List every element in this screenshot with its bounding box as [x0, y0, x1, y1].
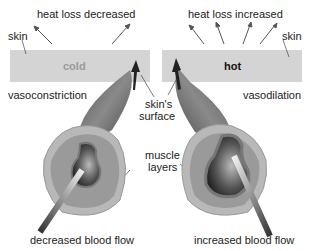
heat-loss-increased-label: heat loss increased: [188, 8, 283, 20]
skin-label-left: skin: [8, 30, 28, 42]
heat-arrows-right: [189, 22, 277, 44]
thermoregulation-diagram: heat loss decreased skin cold vasoconstr…: [0, 0, 310, 251]
vasoconstriction-label: vasoconstriction: [8, 89, 87, 101]
muscle-layers-label-line2: layers: [148, 161, 177, 173]
muscle-layers-label-line1: muscle: [145, 149, 180, 161]
skins-surface-label-line1: skin's: [145, 98, 172, 110]
increased-blood-flow-label: increased blood flow: [194, 234, 294, 246]
heat-loss-decreased-label: heat loss decreased: [37, 8, 135, 20]
skin-label-right: skin: [282, 30, 302, 42]
diagram-graphics: [0, 0, 310, 251]
decreased-blood-flow-label: decreased blood flow: [30, 234, 134, 246]
vasodilation-label: vasodilation: [243, 89, 301, 101]
skins-surface-label-line2: surface: [139, 110, 175, 122]
cold-label: cold: [63, 60, 86, 72]
hot-label: hot: [224, 60, 241, 72]
heat-arrows-left: [34, 24, 130, 44]
